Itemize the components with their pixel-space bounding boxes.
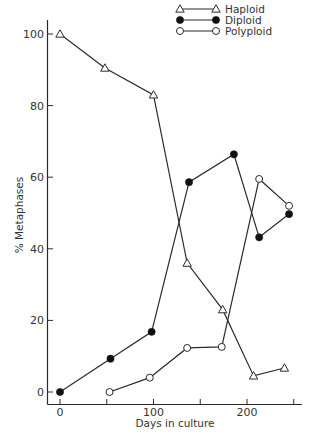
series-line <box>60 154 289 392</box>
legend-item-polyploid: Polyploid <box>177 25 273 37</box>
open-circle-marker <box>177 28 184 35</box>
y-tick-label: 80 <box>30 100 44 113</box>
y-tick-label: 0 <box>37 386 44 399</box>
open-circle-marker <box>146 374 153 381</box>
filled-circle-marker <box>285 210 292 217</box>
open-circle-marker <box>218 343 225 350</box>
filled-circle-marker <box>148 328 155 335</box>
series-line <box>60 34 284 376</box>
filled-circle-marker <box>230 151 237 158</box>
legend: HaploidDiploidPolyploid <box>176 3 272 37</box>
open-circle-marker <box>106 389 113 396</box>
filled-circle-marker <box>176 16 183 23</box>
filled-circle-marker <box>212 16 219 23</box>
triangle-marker <box>149 91 157 98</box>
filled-circle-marker <box>56 388 63 395</box>
series-group <box>56 30 293 396</box>
filled-circle-marker <box>185 179 192 186</box>
series-polyploid <box>106 175 293 395</box>
x-tick-label: 200 <box>237 406 258 419</box>
chart: 0204060801000100200 HaploidDiploidPolypl… <box>0 0 315 441</box>
y-tick-label: 40 <box>30 243 44 256</box>
triangle-marker <box>101 64 109 71</box>
triangle-marker <box>280 364 288 371</box>
y-tick-label: 60 <box>30 171 44 184</box>
triangle-marker <box>183 259 191 266</box>
series-line <box>110 179 290 392</box>
x-axis-title: Days in culture <box>135 417 214 429</box>
open-circle-marker <box>286 202 293 209</box>
filled-circle-marker <box>256 234 263 241</box>
legend-label: Polyploid <box>225 25 272 37</box>
axes: 0204060801000100200 <box>23 20 302 419</box>
y-axis-title: % Metaphases <box>13 177 25 254</box>
y-tick-label: 20 <box>30 314 44 327</box>
y-tick-label: 100 <box>23 28 44 41</box>
x-tick-label: 0 <box>57 406 64 419</box>
open-circle-marker <box>184 344 191 351</box>
open-circle-marker <box>256 175 263 182</box>
triangle-marker <box>56 30 64 37</box>
open-circle-marker <box>213 28 220 35</box>
filled-circle-marker <box>107 355 114 362</box>
